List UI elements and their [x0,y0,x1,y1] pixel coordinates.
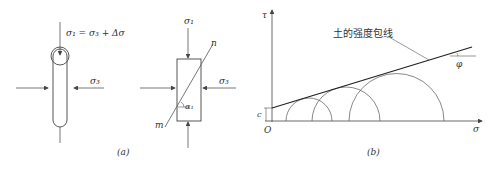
caption-a: (a) [117,147,130,157]
sigma-axis-label: σ [473,124,480,134]
element-sigma3-label: σ₃ [219,76,229,86]
cohesion-label: c [257,110,262,119]
origin-label: O [264,125,272,135]
tau-axis-label: τ [262,10,268,20]
specimen-sigma1-label: σ₁ = σ₃ + Δσ [66,28,126,38]
envelope-label: 土的强度包线 [333,27,393,39]
phi-angle-label: φ [456,59,463,69]
diagram-canvas: σ₁ = σ₃ + Δσ σ₃ σ₁ σ₃ n m α₁ (a) [0,0,493,171]
stress-element [140,28,236,148]
mohr-diagram [264,10,482,122]
alpha-angle-label: α₁ [185,102,194,111]
plane-m-label: m [155,120,164,130]
specimen-sigma3-label: σ₃ [90,76,100,86]
caption-b: (b) [367,147,380,157]
plane-n-label: n [211,38,217,48]
element-sigma1-label: σ₁ [184,16,194,26]
